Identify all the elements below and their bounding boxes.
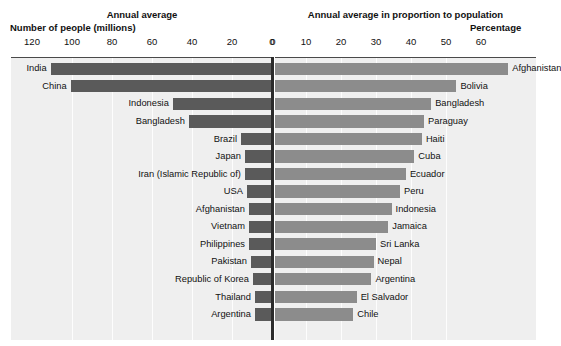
bar-label: Bangladesh xyxy=(435,97,484,109)
right-tick-0: 0 xyxy=(270,36,275,47)
bar-label: Bangladesh xyxy=(136,115,185,127)
bar-row[interactable]: Bolivia xyxy=(275,78,536,96)
bar-row[interactable]: Philippines xyxy=(11,236,273,254)
right-section-title: Annual average in proportion to populati… xyxy=(275,9,536,20)
bar-afghanistan[interactable] xyxy=(275,63,508,75)
bar-nepal[interactable] xyxy=(275,256,374,268)
bar-indonesia[interactable] xyxy=(275,203,392,215)
bar-chile[interactable] xyxy=(275,308,353,320)
bar-row[interactable]: Haiti xyxy=(275,130,536,148)
left-plot-panel: IndiaChinaIndonesiaBangladeshBrazilJapan… xyxy=(11,57,273,340)
bar-label: Brazil xyxy=(214,133,237,145)
bar-label: China xyxy=(42,80,66,92)
bar-row[interactable]: Republic of Korea xyxy=(11,271,273,289)
bar-row[interactable]: Bangladesh xyxy=(275,95,536,113)
bar-label: Sri Lanka xyxy=(380,238,419,250)
left-tick-20: 20 xyxy=(227,36,238,47)
bar-row[interactable]: Thailand xyxy=(11,288,273,306)
bar-row[interactable]: Indonesia xyxy=(11,95,273,113)
bar-label: Vietnam xyxy=(211,220,245,232)
bar-row[interactable]: Bangladesh xyxy=(11,113,273,131)
right-tick-20: 20 xyxy=(336,36,347,47)
bar-label: Haiti xyxy=(426,133,445,145)
bar-row[interactable]: USA xyxy=(11,183,273,201)
bar-label: Bolivia xyxy=(460,80,487,92)
left-section-title: Annual average xyxy=(11,9,273,20)
bar-label: Paraguay xyxy=(428,115,468,127)
bar-row[interactable]: India xyxy=(11,60,273,78)
bar-label: El Salvador xyxy=(361,291,409,303)
bar-china[interactable] xyxy=(71,80,273,92)
bar-philippines[interactable] xyxy=(249,238,273,250)
bar-brazil[interactable] xyxy=(241,133,273,145)
bar-label: Indonesia xyxy=(128,97,168,109)
left-tick-60: 60 xyxy=(147,36,158,47)
bar-bangladesh[interactable] xyxy=(275,98,431,110)
left-tick-40: 40 xyxy=(187,36,198,47)
bar-row[interactable]: Pakistan xyxy=(11,253,273,271)
bar-republic-of-korea[interactable] xyxy=(253,273,273,285)
left-tick-100: 100 xyxy=(64,36,80,47)
bar-row[interactable]: Peru xyxy=(275,183,536,201)
bar-row[interactable]: Afghanistan xyxy=(275,60,536,78)
bar-india[interactable] xyxy=(51,63,273,75)
bar-usa[interactable] xyxy=(247,185,273,197)
bar-label: Indonesia xyxy=(396,203,436,215)
bar-el-salvador[interactable] xyxy=(275,291,357,303)
bar-pakistan[interactable] xyxy=(251,256,273,268)
bar-row[interactable]: Japan xyxy=(11,148,273,166)
bar-label: Japan xyxy=(216,150,241,162)
bar-row[interactable]: Afghanistan xyxy=(11,200,273,218)
bar-label: Pakistan xyxy=(211,255,247,267)
bar-row[interactable]: Chile xyxy=(275,306,536,324)
bar-row[interactable]: Cuba xyxy=(275,148,536,166)
bar-row[interactable]: Paraguay xyxy=(275,113,536,131)
bar-label: Republic of Korea xyxy=(175,273,249,285)
bar-row[interactable]: Nepal xyxy=(275,253,536,271)
bar-label: Ecuador xyxy=(410,168,445,180)
bar-row[interactable]: El Salvador xyxy=(275,288,536,306)
bar-row[interactable]: Argentina xyxy=(11,306,273,324)
bar-row[interactable]: Argentina xyxy=(275,271,536,289)
center-axis-line xyxy=(271,57,274,340)
bar-peru[interactable] xyxy=(275,185,400,197)
bar-row[interactable]: Jamaica xyxy=(275,218,536,236)
bar-label: Afghanistan xyxy=(512,62,561,74)
bar-indonesia[interactable] xyxy=(173,98,273,110)
bar-haiti[interactable] xyxy=(275,133,422,145)
bar-row[interactable]: Vietnam xyxy=(11,218,273,236)
bar-label: Chile xyxy=(357,308,378,320)
right-tick-60: 60 xyxy=(476,36,487,47)
bar-label: Philippines xyxy=(200,238,245,250)
bar-iran-islamic-republic-of[interactable] xyxy=(245,168,273,180)
bar-label: Iran (Islamic Republic of) xyxy=(138,168,241,180)
left-axis-label: Number of people (millions) xyxy=(10,22,136,33)
bar-row[interactable]: Sri Lanka xyxy=(275,236,536,254)
bar-row[interactable]: China xyxy=(11,78,273,96)
right-tick-50: 50 xyxy=(441,36,452,47)
bar-paraguay[interactable] xyxy=(275,115,424,127)
bar-row[interactable]: Brazil xyxy=(11,130,273,148)
bar-cuba[interactable] xyxy=(275,150,414,162)
bar-row[interactable]: Iran (Islamic Republic of) xyxy=(11,165,273,183)
bar-ecuador[interactable] xyxy=(275,168,406,180)
bar-afghanistan[interactable] xyxy=(249,203,273,215)
bar-label: India xyxy=(26,62,46,74)
bar-sri-lanka[interactable] xyxy=(275,238,376,250)
bar-label: Jamaica xyxy=(392,220,427,232)
bar-bolivia[interactable] xyxy=(275,80,456,92)
bar-row[interactable]: Indonesia xyxy=(275,200,536,218)
bar-label: Peru xyxy=(404,185,424,197)
left-tick-80: 80 xyxy=(107,36,118,47)
right-tick-10: 10 xyxy=(301,36,312,47)
bar-label: Argentina xyxy=(375,273,415,285)
bar-label: USA xyxy=(224,185,243,197)
bar-label: Thailand xyxy=(215,291,251,303)
bar-argentina[interactable] xyxy=(275,273,371,285)
bar-vietnam[interactable] xyxy=(249,221,273,233)
bar-jamaica[interactable] xyxy=(275,221,388,233)
bar-row[interactable]: Ecuador xyxy=(275,165,536,183)
bar-bangladesh[interactable] xyxy=(189,115,273,127)
bar-japan[interactable] xyxy=(245,150,273,162)
